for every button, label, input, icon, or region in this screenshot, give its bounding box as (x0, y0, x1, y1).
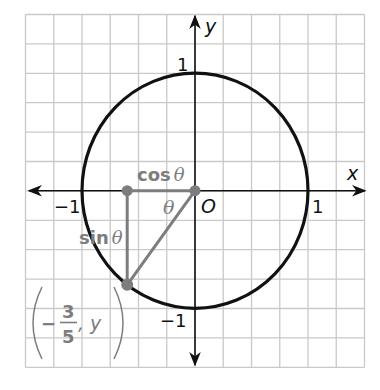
origin-label: O (201, 195, 216, 217)
terminal-point (121, 279, 133, 291)
cos-theta-label: cosθ (137, 164, 185, 185)
comma-y: , y (78, 312, 102, 334)
angle-theta-label: θ (163, 196, 175, 218)
terminal-point-label: − 3 5 , y (33, 287, 123, 359)
fraction-denominator: 5 (62, 326, 75, 347)
sin-theta-label: sinθ (79, 227, 123, 248)
x-neg1-label: −1 (54, 196, 81, 217)
minus-sign: − (41, 313, 56, 334)
y-axis-label: y (204, 15, 217, 37)
unit-circle-diagram: x y O 1 −1 1 −1 cosθ θ sinθ − 3 5 , y (0, 0, 380, 390)
y-neg1-label: −1 (160, 310, 187, 331)
cos-point (122, 185, 133, 196)
fraction-numerator: 3 (62, 301, 75, 322)
x-axis-label: x (346, 162, 359, 184)
origin-point (190, 185, 201, 196)
radius-segment (127, 191, 195, 285)
y-pos1-label: 1 (177, 54, 188, 75)
x-pos1-label: 1 (312, 196, 323, 217)
right-paren (114, 287, 123, 359)
